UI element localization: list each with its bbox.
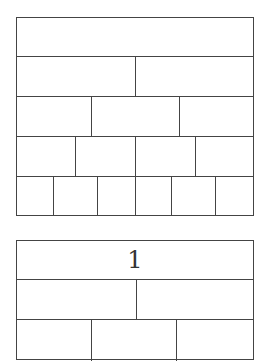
strip-cell — [135, 137, 195, 176]
strip-row: 1 — [17, 241, 253, 279]
strip-cell — [17, 97, 91, 136]
strip-cell — [53, 177, 97, 216]
strip-cell — [135, 177, 171, 216]
strip-cell: 1 — [17, 241, 253, 279]
strip-cell — [17, 18, 253, 56]
strip-row — [17, 56, 253, 96]
bottom-fraction-strip: 1 — [16, 240, 254, 360]
strip-row — [17, 136, 253, 176]
top-fraction-strip — [16, 17, 254, 216]
strip-cell — [97, 177, 135, 216]
strip-cell — [171, 177, 215, 216]
strip-cell — [176, 320, 253, 361]
strip-cell — [179, 97, 253, 136]
strip-cell — [91, 320, 176, 361]
strip-cell — [136, 280, 253, 319]
strip-cell — [215, 177, 253, 216]
strip-row — [17, 96, 253, 136]
strip-cell — [17, 320, 91, 361]
strip-cell — [135, 57, 253, 96]
strip-row — [17, 279, 253, 319]
strip-cell — [17, 177, 53, 216]
strip-cell — [17, 280, 136, 319]
strip-row — [17, 319, 253, 361]
strip-row — [17, 176, 253, 216]
strip-cell — [17, 137, 75, 176]
strip-cell — [195, 137, 253, 176]
strip-row — [17, 18, 253, 56]
strip-cell — [91, 97, 179, 136]
strip-cell — [17, 57, 135, 96]
strip-cell — [75, 137, 135, 176]
